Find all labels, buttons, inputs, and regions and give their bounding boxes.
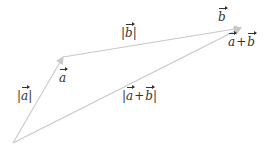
vec-a-symbol: a (228, 36, 235, 48)
vec-a-symbol: a (59, 72, 66, 84)
plus-sign: + (134, 89, 144, 103)
vec-b-symbol: b (218, 11, 226, 23)
vec-b-symbol: b (125, 27, 133, 39)
vector-sum-arrow (13, 28, 241, 143)
vec-a-symbol: a (21, 90, 28, 102)
plus-sign: + (236, 35, 246, 49)
vec-b-symbol: b (145, 90, 153, 102)
label-vec-b: b (218, 11, 226, 23)
abs-bar-right: | (28, 89, 32, 103)
vec-a-symbol: a (126, 90, 133, 102)
vector-b-arrow (63, 28, 241, 57)
abs-bar-right: | (133, 26, 137, 40)
label-abs-sum: |a+b| (122, 90, 157, 102)
label-vec-sum: a+b (228, 36, 255, 48)
label-abs-b: |b| (121, 27, 137, 39)
vec-b-symbol: b (247, 36, 255, 48)
label-vec-a: a (59, 72, 66, 84)
abs-bar-right: | (153, 89, 157, 103)
label-abs-a: |a| (17, 90, 32, 102)
